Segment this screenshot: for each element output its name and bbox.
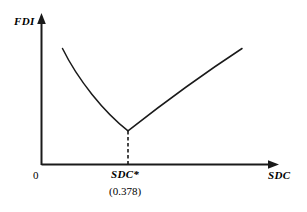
- plot-area: [0, 0, 307, 212]
- figure-canvas: FDI SDC 0 SDC* (0.378): [0, 0, 307, 212]
- y-axis-arrowhead: [37, 13, 46, 24]
- x-axis-arrowhead: [268, 160, 279, 169]
- y-axis-label: FDI: [14, 16, 34, 27]
- x-axis-label: SDC: [268, 170, 290, 181]
- optimum-point-value: (0.378): [109, 186, 141, 197]
- optimum-point-label: SDC*: [111, 169, 139, 180]
- fdi-curve: [63, 49, 243, 131]
- origin-label: 0: [33, 170, 39, 181]
